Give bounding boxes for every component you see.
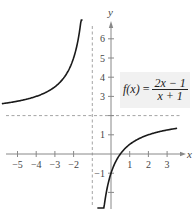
axis-ticks: −5−4−3−212365431−1 — [12, 33, 169, 192]
axes — [6, 21, 186, 209]
function-name: f(x) — [123, 82, 140, 97]
equals-sign: = — [143, 82, 150, 97]
x-tick-label: 3 — [165, 159, 170, 170]
x-tick-label: −3 — [50, 159, 61, 170]
asymptotes — [6, 26, 180, 206]
y-axis-arrow-icon — [109, 21, 113, 28]
fraction: 2x − 1 x + 1 — [152, 77, 187, 102]
y-tick-label: 5 — [100, 53, 105, 64]
function-label: f(x) = 2x − 1 x + 1 — [123, 77, 188, 102]
x-tick-label: 2 — [146, 159, 151, 170]
x-tick-label: −2 — [68, 159, 79, 170]
x-tick-label: 1 — [127, 159, 132, 170]
x-tick-label: −4 — [31, 159, 42, 170]
y-tick-label: 3 — [100, 91, 105, 102]
left-branch-curve — [3, 20, 82, 104]
y-tick-label: 4 — [100, 72, 105, 83]
y-tick-label: 6 — [100, 33, 105, 44]
denominator: x + 1 — [155, 90, 184, 102]
y-tick-label: 1 — [100, 129, 105, 140]
function-curves — [3, 20, 177, 208]
x-axis-arrow-icon — [180, 152, 186, 156]
x-tick-label: −5 — [12, 159, 23, 170]
y-tick-label: −1 — [94, 168, 105, 179]
y-axis-label: y — [107, 6, 113, 18]
x-axis-label: x — [186, 148, 192, 160]
